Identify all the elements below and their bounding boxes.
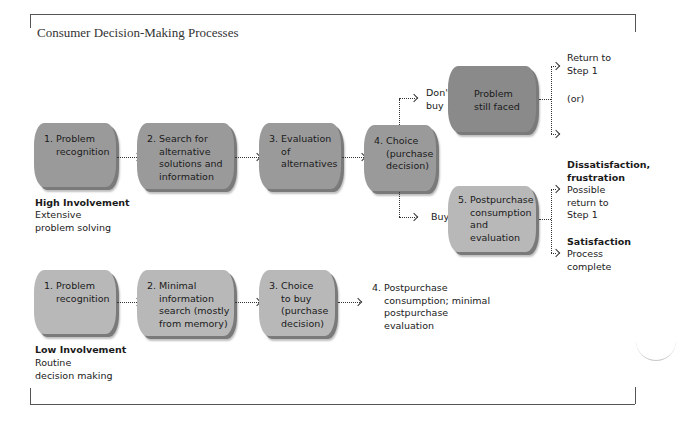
problem-still-faced-label: Problem still faced [474, 88, 528, 113]
edge-label-buy: Buy [431, 211, 449, 224]
arrow-postpurchase-out [539, 219, 551, 220]
postpurchase-box: 5. Postpurchase consumption and evaluati… [448, 186, 536, 252]
arrow-postpurchase-split [551, 189, 552, 253]
arrow-problem-split [551, 66, 552, 134]
high-involvement-desc-1: Extensive [35, 209, 81, 222]
postpurchase-label: 5. Postpurchase consumption and evaluati… [458, 194, 532, 244]
arrow-head-icon [552, 62, 560, 70]
lo-step-1-label: 1. Problem recognition [44, 280, 108, 305]
low-involvement-heading: Low Involvement [35, 344, 126, 357]
arrow-head-icon [410, 213, 418, 221]
lo-step-2-label: 2. Minimal information search (mostly fr… [147, 280, 226, 330]
hi-step-2-box: 2. Search for alternative solutions and … [137, 123, 234, 189]
arrow-head-icon [552, 249, 560, 257]
lo-step-3-box: 3. Choice to buy (purchase decision) [259, 270, 335, 336]
satisfaction-heading: Satisfaction [567, 236, 631, 249]
hi-step-3-box: 3. Evaluation of alternatives [259, 123, 341, 189]
diagram-title: Consumer Decision-Making Processes [37, 25, 238, 41]
frame-bottom-border [30, 404, 635, 405]
arrow-head-icon [552, 185, 560, 193]
arrow-problem-out [539, 99, 551, 100]
frame-bottom-right-tick [635, 387, 636, 404]
high-involvement-heading: High Involvement [35, 197, 130, 210]
lo-step-4-label: 4. Postpurchase consumption; minimal pos… [372, 282, 490, 332]
lo-step-2-box: 2. Minimal information search (mostly fr… [137, 270, 234, 336]
satisfaction-outcome: Process complete [567, 248, 611, 273]
dissatisfaction-heading: Dissatisfaction, frustration [567, 159, 650, 184]
low-involvement-desc-2: decision making [35, 370, 112, 383]
hi-step-1-label: 1. Problem recognition [44, 133, 108, 158]
hi-step-2-label: 2. Search for alternative solutions and … [147, 133, 226, 183]
dissatisfaction-outcome: Possible return to Step 1 [567, 184, 609, 222]
frame-bottom-left-tick [30, 388, 31, 404]
low-involvement-desc-1: Routine [35, 357, 71, 370]
frame-top-right-tick [635, 14, 636, 32]
outcome-or: (or) [567, 93, 584, 106]
arrow-head-icon [552, 130, 560, 138]
page-curl-decoration [636, 340, 676, 361]
hi-step-3-label: 3. Evaluation of alternatives [269, 133, 333, 171]
problem-still-faced-box: Problem still faced [448, 66, 536, 132]
frame-top-left-tick [30, 14, 31, 28]
arrow-dont-buy-vertical [399, 99, 400, 125]
arrow-head-icon [354, 298, 362, 306]
frame-top-border [30, 14, 635, 15]
arrow-buy-vertical [399, 192, 400, 217]
hi-step-4-box: 4. Choice (purchase decision) [364, 125, 436, 191]
lo-step-3-label: 3. Choice to buy (purchase decision) [269, 280, 327, 330]
outcome-return-step1: Return to Step 1 [567, 52, 611, 77]
arrow-head-icon [410, 94, 418, 102]
high-involvement-desc-2: problem solving [35, 222, 111, 235]
lo-step-1-box: 1. Problem recognition [34, 270, 116, 334]
hi-step-1-box: 1. Problem recognition [34, 123, 116, 187]
hi-step-4-label: 4. Choice (purchase decision) [374, 135, 428, 173]
